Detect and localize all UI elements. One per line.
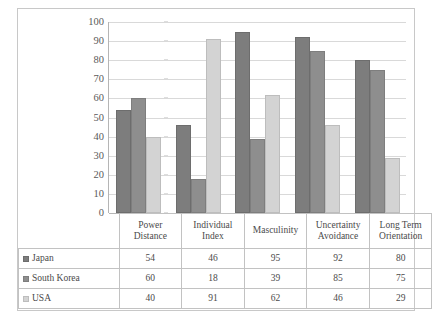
table-cell-value: 91 (182, 289, 245, 309)
column-header-line: Index (183, 231, 243, 242)
column-header: Masculinity (244, 214, 307, 249)
table-cell-value: 80 (369, 249, 432, 269)
table-cell-value: 60 (119, 269, 182, 289)
table-cell-value: 95 (244, 249, 307, 269)
column-header-line: Power (121, 220, 181, 231)
column-header: UncertaintyAvoidance (307, 214, 370, 249)
table-cell-value: 39 (244, 269, 307, 289)
column-header-line: Masculinity (246, 225, 306, 236)
table-cell-value: 75 (369, 269, 432, 289)
y-axis-tick-label: 10 (94, 189, 105, 200)
column-header-line: Orientation (371, 231, 431, 242)
bars-layer (109, 22, 406, 213)
table-row: USA4091624629 (19, 289, 432, 309)
bar-group (109, 22, 169, 213)
bar-group (347, 22, 407, 213)
legend-swatch-icon (23, 256, 29, 262)
table-cell-value: 62 (244, 289, 307, 309)
column-header-line: Uncertainty (308, 220, 368, 231)
plot-wrapper: 0102030405060708090100 (18, 9, 414, 213)
bar (206, 39, 221, 213)
bar (191, 179, 206, 213)
y-axis: 0102030405060708090100 (78, 22, 104, 213)
table-header-row: PowerDistanceIndividualIndexMasculinityU… (19, 214, 432, 249)
bar (250, 139, 265, 213)
data-table: PowerDistanceIndividualIndexMasculinityU… (18, 213, 432, 309)
y-axis-tick-label: 50 (94, 112, 105, 123)
column-header: PowerDistance (119, 214, 182, 249)
bar (131, 98, 146, 213)
bar-group (169, 22, 229, 213)
table-cell-value: 29 (369, 289, 432, 309)
table-cell-value: 40 (119, 289, 182, 309)
table-cell-value: 85 (307, 269, 370, 289)
y-axis-tick-label: 80 (94, 55, 105, 66)
column-header-line: Distance (121, 231, 181, 242)
legend-entry: USA (19, 289, 120, 309)
column-header: IndividualIndex (182, 214, 245, 249)
series-label: Japan (32, 253, 54, 263)
legend-entry: South Korea (19, 269, 120, 289)
bar (355, 60, 370, 213)
table-cell-value: 54 (119, 249, 182, 269)
y-axis-tick-label: 20 (94, 170, 105, 181)
column-header: Long TermOrientation (369, 214, 432, 249)
bar (146, 137, 161, 213)
chart-container: 0102030405060708090100 PowerDistanceIndi… (17, 8, 415, 311)
table-cell-value: 92 (307, 249, 370, 269)
y-axis-tick-label: 40 (94, 131, 105, 142)
plot-area (108, 22, 406, 213)
table-cell-value: 18 (182, 269, 245, 289)
y-axis-tick-label: 30 (94, 150, 105, 161)
y-axis-tick-label: 60 (94, 93, 105, 104)
column-header-line: Individual (183, 220, 243, 231)
table-cell-value: 46 (307, 289, 370, 309)
table-cell-value: 46 (182, 249, 245, 269)
bar-group (288, 22, 348, 213)
bar (116, 110, 131, 213)
y-axis-tick-label: 100 (88, 17, 104, 28)
bar (310, 51, 325, 213)
y-axis-tick-label: 70 (94, 74, 105, 85)
bar (176, 125, 191, 213)
series-label: South Korea (32, 273, 80, 283)
bar (325, 125, 340, 213)
series-label: USA (32, 293, 51, 303)
column-header-line: Long Term (371, 220, 431, 231)
column-header-line: Avoidance (308, 231, 368, 242)
bar (385, 158, 400, 213)
table-row: South Korea6018398575 (19, 269, 432, 289)
table-corner-cell (19, 214, 120, 249)
bar (235, 32, 250, 213)
legend-swatch-icon (23, 296, 29, 302)
y-axis-tick-label: 90 (94, 36, 105, 47)
bar (265, 95, 280, 213)
legend-entry: Japan (19, 249, 120, 269)
bar-group (228, 22, 288, 213)
bar (295, 37, 310, 213)
legend-swatch-icon (23, 276, 29, 282)
bar (370, 70, 385, 213)
table-row: Japan5446959280 (19, 249, 432, 269)
